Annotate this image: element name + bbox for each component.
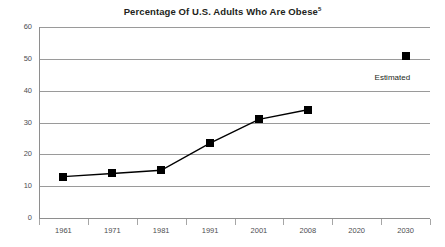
data-point-marker xyxy=(59,173,67,181)
data-point-marker xyxy=(157,166,165,174)
data-point-marker xyxy=(255,115,263,123)
series-polyline xyxy=(63,110,307,177)
data-point-marker xyxy=(206,139,214,147)
data-point-marker xyxy=(402,52,410,60)
data-point-marker xyxy=(108,169,116,177)
estimated-annotation: Estimated xyxy=(375,74,411,82)
series-line-path xyxy=(0,0,445,247)
obesity-line-chart: Percentage Of U.S. Adults Who Are Obese5… xyxy=(0,0,445,247)
data-point-marker xyxy=(304,106,312,114)
